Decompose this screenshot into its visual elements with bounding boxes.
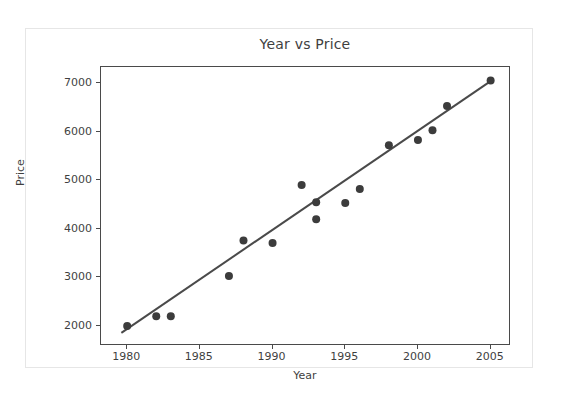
trendline-path [121,81,490,333]
y-axis-tick-labels: 200030004000500060007000 [48,66,92,345]
x-tick-label: 1985 [185,350,213,363]
scatter-point [123,322,131,330]
y-tick-mark [96,228,100,229]
scatter-point [414,136,422,144]
x-tick-label: 2000 [403,350,431,363]
y-tick-label: 6000 [64,124,92,137]
scatter-point [239,237,247,245]
x-tick-label: 1990 [258,350,286,363]
x-tick-mark [417,345,418,349]
x-tick-mark [126,345,127,349]
y-tick-mark [96,325,100,326]
regression-line [121,81,490,333]
plot-area [100,66,510,345]
chart-title: Year vs Price [100,36,510,52]
x-tick-label: 1995 [330,350,358,363]
y-tick-mark [96,276,100,277]
x-axis-label: Year [100,369,510,382]
scatter-point [487,77,495,85]
scatter-point [385,141,393,149]
x-tick-mark [272,345,273,349]
scatter-point [312,198,320,206]
y-tick-label: 3000 [64,270,92,283]
y-tick-label: 7000 [64,76,92,89]
x-tick-mark [344,345,345,349]
y-tick-mark [96,82,100,83]
x-axis-tick-labels: 198019851990199520002005 [0,350,579,366]
x-tick-label: 2005 [476,350,504,363]
x-tick-label: 1980 [112,350,140,363]
scatter-point [443,102,451,110]
chart-figure: Year vs Price Price 20003000400050006000… [0,0,579,398]
y-tick-label: 4000 [64,221,92,234]
scatter-point [298,181,306,189]
scatter-point [269,239,277,247]
scatter-point [225,272,233,280]
x-tick-mark [199,345,200,349]
scatter-points-group [123,77,494,330]
scatter-point [356,185,364,193]
y-tick-label: 2000 [64,319,92,332]
y-tick-mark [96,131,100,132]
scatter-point [428,126,436,134]
y-tick-label: 5000 [64,173,92,186]
y-axis-label: Price [14,159,27,186]
scatter-point [341,199,349,207]
y-tick-mark [96,179,100,180]
scatter-point [312,215,320,223]
scatter-point [152,312,160,320]
scatter-point [167,312,175,320]
x-tick-mark [490,345,491,349]
plot-svg [101,67,511,346]
